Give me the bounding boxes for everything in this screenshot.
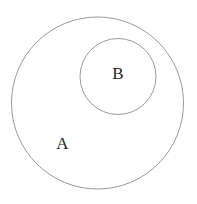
subset-diagram: B A — [0, 0, 197, 204]
set-label-b: B — [112, 64, 123, 83]
set-label-a: A — [56, 134, 69, 153]
diagram-svg: B A — [0, 0, 197, 204]
